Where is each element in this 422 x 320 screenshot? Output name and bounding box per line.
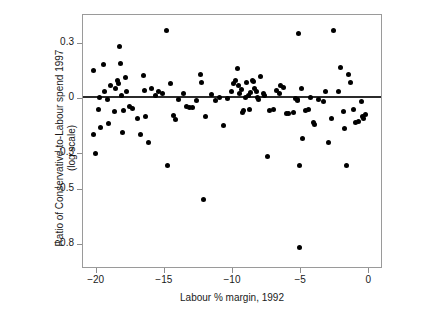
data-point [297, 163, 302, 168]
data-point [91, 68, 96, 73]
data-point [248, 90, 253, 95]
y-axis-tick [77, 189, 82, 190]
data-point [164, 28, 169, 33]
x-axis-tick-label: −20 [76, 274, 116, 285]
data-point [341, 109, 346, 114]
data-point [323, 89, 328, 94]
data-point [247, 107, 252, 112]
x-axis-tick [232, 268, 233, 273]
data-point [96, 107, 101, 112]
data-point [106, 121, 111, 126]
data-point [117, 44, 122, 49]
data-point [312, 122, 317, 127]
data-point [265, 154, 270, 159]
y-axis-tick-label: −0.5 [28, 182, 74, 193]
data-point [105, 97, 110, 102]
data-point [336, 89, 341, 94]
data-point [116, 81, 121, 86]
data-point [112, 109, 117, 114]
y-axis-tick-label: 0 [28, 91, 74, 102]
data-point [176, 97, 181, 102]
y-axis-tick-label: −0.3 [28, 146, 74, 157]
data-point [277, 91, 282, 96]
data-point [321, 99, 326, 104]
data-point [306, 107, 311, 112]
y-axis-tick-label: 0.3 [28, 36, 74, 47]
data-point [168, 81, 173, 86]
data-point [101, 62, 106, 67]
data-point [363, 112, 368, 117]
data-point [198, 72, 203, 77]
data-point [138, 132, 143, 137]
data-point [143, 114, 148, 119]
data-point [356, 119, 361, 124]
reference-line [83, 96, 381, 98]
plot-area [83, 15, 381, 267]
data-point [346, 72, 351, 77]
data-point [221, 123, 226, 128]
scatter-plot-figure: Ratio of Conservative-to-Labour spend 19… [0, 0, 422, 320]
data-point [300, 136, 305, 141]
data-point [338, 65, 343, 70]
data-point [254, 89, 259, 94]
data-point [342, 126, 347, 131]
data-point [113, 86, 118, 91]
x-axis-tick [300, 268, 301, 273]
x-axis-tick [368, 268, 369, 273]
y-axis-tick [77, 98, 82, 99]
data-point [146, 140, 151, 145]
data-point [118, 61, 123, 66]
y-axis-tick [77, 43, 82, 44]
data-point [98, 125, 103, 130]
y-axis-tick-label: −0.8 [28, 237, 74, 248]
data-point [120, 130, 125, 135]
data-point [201, 197, 206, 202]
data-point [119, 93, 124, 98]
data-point [160, 91, 165, 96]
data-point [262, 93, 267, 98]
data-point [194, 98, 199, 103]
data-point [348, 80, 353, 85]
data-point [297, 245, 302, 250]
data-point [199, 80, 204, 85]
data-point [130, 106, 135, 111]
data-point [97, 95, 102, 100]
data-point [295, 98, 300, 103]
data-point [281, 85, 286, 90]
data-point [149, 86, 154, 91]
data-point [121, 108, 126, 113]
data-point [235, 66, 240, 71]
data-point [142, 88, 147, 93]
data-point [190, 105, 195, 110]
x-axis-tick-label: −5 [280, 274, 320, 285]
data-point [299, 86, 304, 91]
data-point [209, 92, 214, 97]
data-point [165, 163, 170, 168]
x-axis-tick-label: 0 [348, 274, 388, 285]
data-point [331, 28, 336, 33]
data-point [203, 114, 208, 119]
data-point [271, 107, 276, 112]
data-point [173, 117, 178, 122]
plot-frame [82, 14, 382, 268]
data-point [329, 116, 334, 121]
data-point [141, 73, 146, 78]
data-point [93, 151, 98, 156]
data-point [359, 99, 364, 104]
data-point [241, 108, 246, 113]
x-axis-tick-label: −15 [144, 274, 184, 285]
x-axis-tick-label: −10 [212, 274, 252, 285]
data-point [326, 140, 331, 145]
data-point [251, 79, 256, 84]
data-point [308, 95, 313, 100]
x-axis-title: Labour % margin, 1992 [82, 292, 382, 303]
data-point [291, 110, 296, 115]
data-point [102, 89, 107, 94]
data-point [239, 87, 244, 92]
x-axis-tick [96, 268, 97, 273]
data-point [135, 116, 140, 121]
data-point [225, 96, 230, 101]
y-axis-tick [77, 244, 82, 245]
data-point [91, 132, 96, 137]
y-axis-tick [77, 153, 82, 154]
